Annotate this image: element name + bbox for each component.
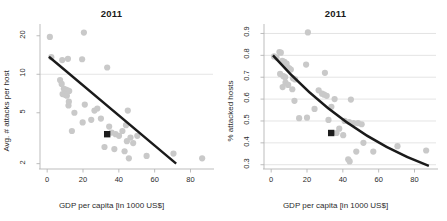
scatter-point bbox=[111, 146, 117, 152]
scatter-point bbox=[333, 130, 339, 136]
scatter-point bbox=[66, 99, 72, 105]
scatter-point bbox=[119, 128, 125, 134]
x-axis-tick-label: 80 bbox=[179, 175, 203, 184]
scatter-point bbox=[348, 96, 354, 102]
scatter-point bbox=[347, 158, 353, 164]
x-axis-tick-label: 0 bbox=[35, 175, 59, 184]
scatter-point bbox=[304, 115, 310, 121]
panel-right-svg bbox=[264, 28, 436, 168]
scatter-point bbox=[359, 121, 365, 127]
scatter-point bbox=[80, 119, 86, 125]
y-axis-tick-label: 0.9 bbox=[235, 27, 257, 36]
scatter-point bbox=[280, 84, 286, 90]
y-axis-tick-label: 5 bbox=[11, 107, 33, 116]
y-axis-tick-label: 0.4 bbox=[235, 137, 257, 146]
scatter-point bbox=[325, 117, 331, 123]
y-axis-tick-label: 2 bbox=[11, 158, 33, 167]
y-axis-tick-label: 10 bbox=[11, 68, 33, 77]
panel-left: 2011 Avg. # attacks per host 25102002040… bbox=[0, 0, 223, 221]
panel-left-svg bbox=[40, 28, 212, 168]
scatter-point bbox=[144, 153, 150, 159]
scatter-point bbox=[305, 29, 311, 35]
scatter-point bbox=[282, 74, 288, 80]
scatter-point bbox=[394, 143, 400, 149]
x-axis-tick-label: 20 bbox=[71, 175, 95, 184]
scatter-point bbox=[199, 155, 205, 161]
y-axis-tick-label: 0.5 bbox=[235, 115, 257, 124]
y-axis-label-text: Avg. # attacks per host bbox=[2, 70, 11, 151]
x-axis-tick-label: 40 bbox=[331, 175, 355, 184]
scatter-point bbox=[331, 96, 337, 102]
scatter-point bbox=[59, 57, 65, 63]
panel-right-x-axis-label: GDP per capita [in 1000 US$] bbox=[224, 201, 447, 210]
y-axis-tick-label-text: 0.9 bbox=[242, 27, 251, 37]
scatter-point bbox=[126, 155, 132, 161]
y-axis-tick-label: 0.3 bbox=[235, 159, 257, 168]
panel-left-plot-area: 251020020406080 bbox=[40, 28, 212, 168]
x-axis-tick-label: 40 bbox=[107, 175, 131, 184]
y-axis-tick-label: 20 bbox=[11, 30, 33, 39]
panel-left-title: 2011 bbox=[0, 8, 223, 19]
y-axis-tick-label-text: 0.7 bbox=[242, 71, 251, 81]
scatter-point bbox=[324, 93, 330, 99]
scatter-point bbox=[101, 144, 107, 150]
scatter-point bbox=[79, 56, 85, 62]
scatter-point bbox=[311, 106, 317, 112]
x-axis-tick-label: 80 bbox=[403, 175, 427, 184]
scatter-point bbox=[94, 105, 100, 111]
scatter-point bbox=[71, 110, 77, 116]
scatter-point bbox=[82, 101, 88, 107]
scatter-point bbox=[64, 93, 70, 99]
y-axis-label-text: % attacked hosts bbox=[226, 80, 235, 141]
y-axis-tick-label-text: 0.3 bbox=[242, 158, 251, 168]
scatter-point bbox=[127, 134, 133, 140]
panel-right-title: 2011 bbox=[224, 8, 447, 19]
scatter-point bbox=[291, 98, 297, 104]
scatter-point bbox=[340, 132, 346, 138]
panel-right-plot-area: 0.30.40.50.60.70.80.9020406080 bbox=[264, 28, 436, 168]
scatter-point bbox=[81, 29, 87, 35]
x-axis-tick-label: 60 bbox=[367, 175, 391, 184]
scatter-point bbox=[370, 148, 376, 154]
scatter-point bbox=[130, 140, 136, 146]
x-axis-tick-label: 60 bbox=[143, 175, 167, 184]
scatter-point bbox=[303, 61, 309, 67]
scatter-point bbox=[69, 128, 75, 134]
y-axis-tick-label-text: 0.5 bbox=[242, 114, 251, 124]
highlight-marker bbox=[104, 131, 110, 137]
scatter-point bbox=[423, 147, 429, 153]
x-axis-tick-label: 20 bbox=[295, 175, 319, 184]
scatter-point bbox=[353, 148, 359, 154]
y-axis-tick-label-text: 5 bbox=[17, 109, 26, 113]
scatter-point bbox=[296, 115, 302, 121]
figure-two-scatter-plots: 2011 Avg. # attacks per host 25102002040… bbox=[0, 0, 447, 221]
scatter-point bbox=[322, 70, 328, 76]
scatter-point bbox=[360, 140, 366, 146]
scatter-point bbox=[88, 117, 94, 123]
scatter-point bbox=[125, 107, 131, 113]
y-axis-tick-label-text: 10 bbox=[18, 69, 27, 77]
scatter-point bbox=[278, 50, 284, 56]
scatter-point bbox=[121, 148, 127, 154]
scatter-point bbox=[104, 64, 110, 70]
trend-curve bbox=[273, 55, 429, 165]
scatter-point bbox=[106, 123, 112, 129]
y-axis-tick-label-text: 0.4 bbox=[242, 136, 251, 146]
scatter-point bbox=[65, 56, 71, 62]
y-axis-tick-label: 0.8 bbox=[235, 49, 257, 58]
scatter-point bbox=[170, 150, 176, 156]
y-axis-tick-label-text: 0.8 bbox=[242, 49, 251, 59]
scatter-point bbox=[289, 86, 295, 92]
scatter-point bbox=[98, 116, 104, 122]
scatter-point bbox=[47, 34, 53, 40]
x-axis-tick-label: 0 bbox=[259, 175, 283, 184]
y-axis-tick-label-text: 20 bbox=[18, 30, 27, 38]
highlight-marker bbox=[328, 130, 334, 136]
panel-right: 2011 % attacked hosts 0.30.40.50.60.70.8… bbox=[224, 0, 447, 221]
y-axis-tick-label: 0.7 bbox=[235, 71, 257, 80]
y-axis-tick-label-text: 0.6 bbox=[242, 92, 251, 102]
y-axis-tick-label-text: 2 bbox=[17, 160, 26, 164]
y-axis-tick-label: 0.6 bbox=[235, 93, 257, 102]
panel-left-x-axis-label: GDP per capita [in 1000 US$] bbox=[0, 201, 223, 210]
